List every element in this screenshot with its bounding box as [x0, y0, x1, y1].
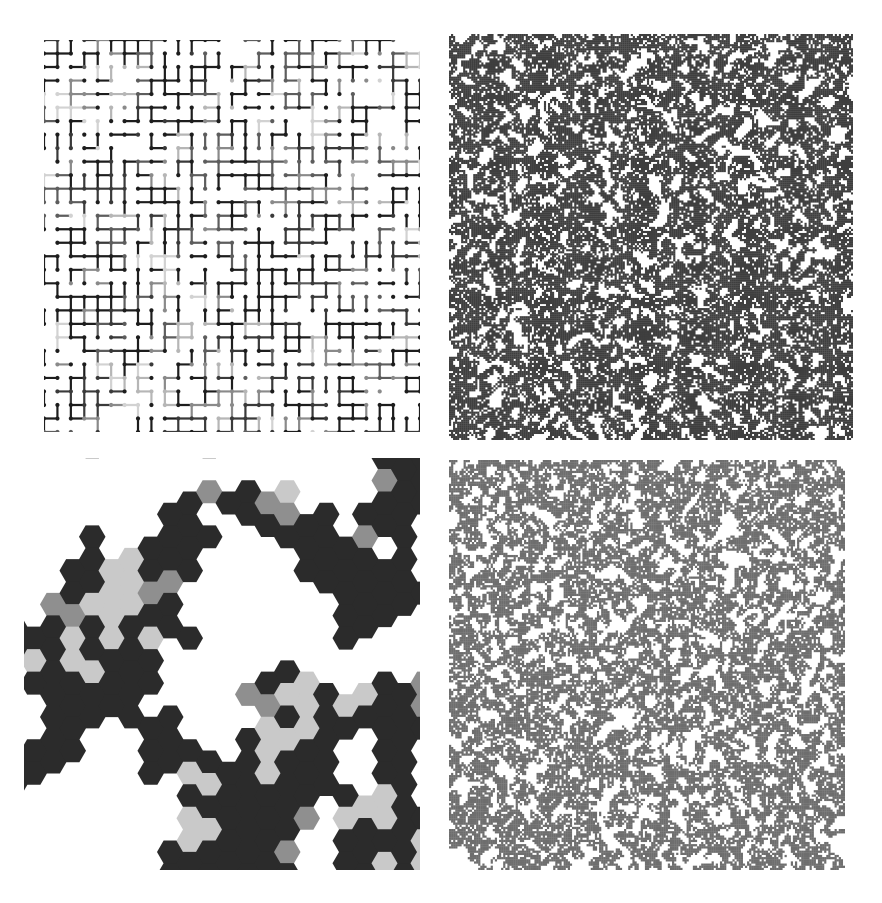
hexagonal-percolation-canvas: [24, 458, 420, 870]
panel-site-percolation-critical: [449, 34, 853, 440]
percolation-figure: [0, 0, 882, 903]
bond-percolation-canvas: [44, 40, 420, 432]
spanning-cluster-canvas: [449, 460, 845, 870]
site-percolation-canvas: [449, 34, 853, 440]
panel-bond-percolation-lattice: [44, 40, 420, 432]
panel-hexagonal-site-percolation: [24, 458, 420, 870]
panel-incipient-spanning-cluster: [449, 460, 845, 870]
